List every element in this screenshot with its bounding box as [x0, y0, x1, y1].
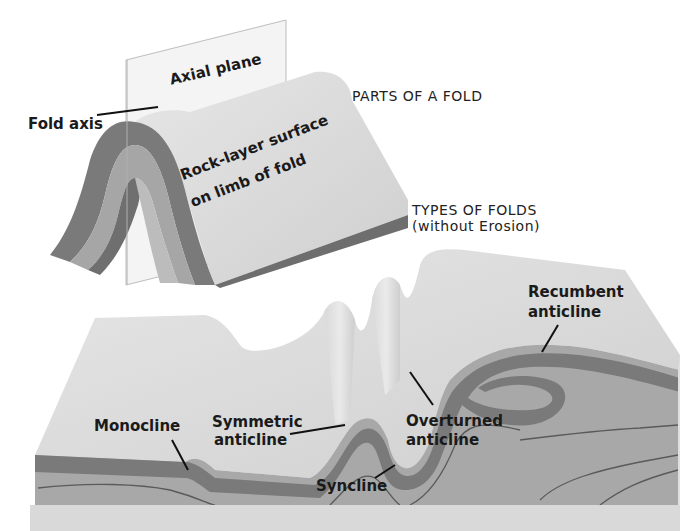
- label-monocline: Monocline: [94, 418, 180, 435]
- label-recumbent-anticline-1: Recumbent: [528, 284, 624, 301]
- subtitle-without-erosion: (without Erosion): [412, 218, 540, 234]
- label-recumbent-anticline-2: anticline: [528, 304, 601, 321]
- label-symmetric-anticline-2: anticline: [214, 432, 287, 449]
- label-symmetric-anticline-1: Symmetric: [212, 414, 303, 431]
- title-parts-of-a-fold: PARTS OF A FOLD: [352, 88, 482, 104]
- label-overturned-anticline-2: anticline: [406, 432, 479, 449]
- fold-illustration: [0, 0, 700, 531]
- title-types-of-folds: TYPES OF FOLDS: [412, 202, 537, 218]
- label-overturned-anticline-1: Overturned: [406, 413, 503, 430]
- label-fold-axis: Fold axis: [28, 116, 103, 133]
- label-syncline: Syncline: [316, 478, 387, 495]
- fold-diagram: Axial plane Fold axis Rock-layer surface…: [0, 0, 700, 531]
